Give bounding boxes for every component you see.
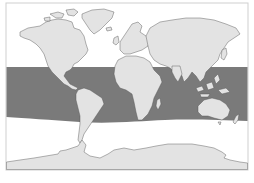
iceland bbox=[106, 27, 112, 31]
world-map bbox=[0, 0, 254, 183]
